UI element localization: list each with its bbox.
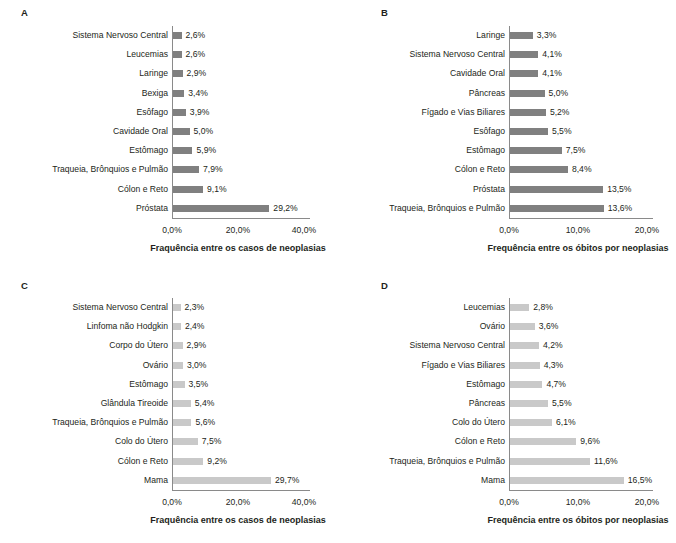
bar-row: Cólon e Reto9,6% <box>338 432 676 451</box>
bar-row-group: Laringe3,3%Sistema Nervoso Central4,1%Ca… <box>338 26 676 218</box>
bar-row: Laringe3,3% <box>338 26 676 45</box>
bar-container <box>173 356 183 375</box>
category-label: Cólon e Reto <box>455 160 505 179</box>
category-label: Leucemias <box>126 45 168 64</box>
bar <box>173 438 198 445</box>
category-label: Esôfago <box>136 103 168 122</box>
category-label: Sistema Nervoso Central <box>72 26 168 45</box>
category-label: Cavidade Oral <box>450 64 505 83</box>
value-label: 2,4% <box>185 317 205 336</box>
value-label: 2,6% <box>186 26 206 45</box>
bar-container <box>173 122 190 141</box>
value-label: 5,2% <box>550 103 570 122</box>
bar-row: Próstata13,5% <box>338 180 676 199</box>
y-axis-spine <box>509 298 510 490</box>
bar-row: Glândula Tireoide5,4% <box>0 394 338 413</box>
bar-row: Bexiga3,4% <box>0 84 338 103</box>
bar-row: Leucemias2,8% <box>338 298 676 317</box>
bar-container <box>510 64 538 83</box>
bar <box>173 304 181 311</box>
value-label: 8,4% <box>572 160 592 179</box>
panel-letter-a: A <box>21 7 28 18</box>
category-label: Sistema Nervoso Central <box>409 45 505 64</box>
bar-container <box>173 452 203 471</box>
category-label: Laringe <box>139 64 168 83</box>
category-label: Próstata <box>473 180 505 199</box>
chart-panel-a: A Sistema Nervoso Central2,6%Leucemias2,… <box>0 0 338 271</box>
panel-letter-b: B <box>381 7 388 18</box>
chart-panel-b: B Laringe3,3%Sistema Nervoso Central4,1%… <box>338 0 676 271</box>
bar-container <box>173 199 269 218</box>
bar-container <box>510 141 562 160</box>
bar-container <box>510 336 539 355</box>
bar <box>510 128 548 135</box>
chart-panel-d: D Leucemias2,8%Ovário3,6%Sistema Nervoso… <box>338 272 676 543</box>
category-label: Bexiga <box>142 84 168 103</box>
x-tick-label: 0,0% <box>499 497 519 507</box>
bar-row: Colo do Útero7,5% <box>0 432 338 451</box>
bar-row: Estômago3,5% <box>0 375 338 394</box>
bar-container <box>510 356 540 375</box>
x-tick-label: 40,0% <box>292 497 316 507</box>
bar-container <box>510 199 604 218</box>
bar-container <box>510 317 535 336</box>
bar <box>173 400 191 407</box>
bar-container <box>510 452 590 471</box>
bar-row: Traqueia, Brônquios e Pulmão13,6% <box>338 199 676 218</box>
bar <box>510 342 539 349</box>
category-label: Cólon e Reto <box>455 432 505 451</box>
bar-row: Ovário3,6% <box>338 317 676 336</box>
value-label: 5,5% <box>552 122 572 141</box>
bar <box>510 166 568 173</box>
category-label: Ovário <box>143 356 168 375</box>
category-label: Ovário <box>480 317 505 336</box>
bar-container <box>173 64 183 83</box>
bar-row: Cólon e Reto9,1% <box>0 180 338 199</box>
value-label: 2,6% <box>186 45 206 64</box>
bar <box>173 70 183 77</box>
bar-container <box>173 432 198 451</box>
x-tick-label: 20,0% <box>226 497 250 507</box>
bar-container <box>510 45 538 64</box>
bar-row: Cólon e Reto9,2% <box>0 452 338 471</box>
category-label: Traqueia, Brônquios e Pulmão <box>52 413 168 432</box>
value-label: 13,5% <box>607 180 631 199</box>
y-axis-spine <box>172 26 173 218</box>
bar-row: Mama29,7% <box>0 471 338 490</box>
bar <box>510 32 533 39</box>
bar-row: Traqueia, Brônquios e Pulmão7,9% <box>0 160 338 179</box>
bar-container <box>510 180 603 199</box>
bar-row: Estômago5,9% <box>0 141 338 160</box>
bar <box>510 90 545 97</box>
bar <box>510 381 542 388</box>
value-label: 5,9% <box>196 141 216 160</box>
bar <box>510 186 603 193</box>
bar-container <box>173 317 181 336</box>
bar <box>510 147 562 154</box>
category-label: Esôfago <box>473 122 505 141</box>
bar-row: Cavidade Oral4,1% <box>338 64 676 83</box>
bar-row-group: Leucemias2,8%Ovário3,6%Sistema Nervoso C… <box>338 298 676 490</box>
bar-row: Traqueia, Brônquios e Pulmão11,6% <box>338 452 676 471</box>
bar-row: Cavidade Oral5,0% <box>0 122 338 141</box>
category-label: Traqueia, Brônquios e Pulmão <box>389 452 505 471</box>
category-label: Cavidade Oral <box>113 122 168 141</box>
x-tick-label: 0,0% <box>162 497 182 507</box>
bar <box>173 128 190 135</box>
x-axis-spine <box>509 218 653 219</box>
value-label: 3,0% <box>187 356 207 375</box>
y-axis-spine <box>509 26 510 218</box>
value-label: 2,9% <box>187 336 207 355</box>
x-axis-title: Frequência entre os óbitos por neoplasia… <box>487 243 668 253</box>
x-axis-spine <box>172 490 310 491</box>
bar <box>173 205 269 212</box>
bar-row: Colo do Útero6,1% <box>338 413 676 432</box>
category-label: Cólon e Reto <box>118 452 168 471</box>
x-axis-spine <box>172 218 310 219</box>
value-label: 11,6% <box>594 452 618 471</box>
bar-row: Estômago4,7% <box>338 375 676 394</box>
x-tick-label: 20,0% <box>635 225 659 235</box>
value-label: 5,6% <box>195 413 215 432</box>
y-axis-spine <box>172 298 173 490</box>
category-label: Pâncreas <box>469 394 505 413</box>
